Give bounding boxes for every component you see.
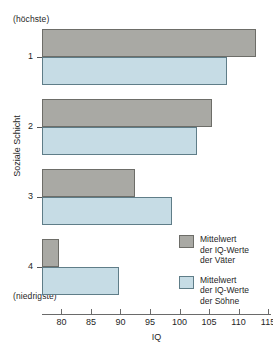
x-axis-tick-label: 95 (135, 317, 165, 327)
legend-entry: Mittelwertder IQ-Werteder Väter (179, 234, 273, 266)
bar-fathers (42, 239, 59, 267)
y-axis-tick (37, 57, 42, 58)
y-axis-category-label: 2 (19, 121, 33, 131)
legend: Mittelwertder IQ-Werteder VäterMittelwer… (179, 234, 273, 315)
legend-label-line: der IQ-Werte (200, 285, 273, 296)
bar-sons (42, 197, 172, 225)
x-axis-tick-label: 115 (253, 317, 273, 327)
x-axis-tick-label: 90 (105, 317, 135, 327)
bar-fathers (42, 99, 212, 127)
x-axis-tick (91, 309, 92, 314)
x-axis-tick-label: 85 (76, 317, 106, 327)
bar-sons (42, 267, 119, 295)
highest-class-note: (höchste) (13, 14, 49, 24)
legend-label-line: Mittelwert (200, 234, 273, 245)
iq-social-class-bar-chart: (höchste) (niedrigste) Soziale Schicht I… (0, 0, 273, 356)
y-axis-category-label: 4 (19, 261, 33, 271)
x-axis-tick-label: 105 (194, 317, 224, 327)
x-axis-tick (61, 309, 62, 314)
legend-swatch-sons (179, 276, 194, 289)
bar-fathers (42, 29, 256, 57)
y-axis-tick (37, 267, 42, 268)
x-axis-title: IQ (42, 332, 271, 342)
x-axis-tick-label: 110 (224, 317, 254, 327)
bar-sons (42, 127, 197, 155)
bar-group (42, 99, 273, 155)
legend-label: Mittelwertder IQ-Werteder Väter (200, 234, 273, 266)
legend-label-line: der Söhne (200, 296, 273, 307)
x-axis-tick (209, 309, 210, 314)
x-axis-tick (120, 309, 121, 314)
legend-label: Mittelwertder IQ-Werteder Söhne (200, 275, 273, 307)
legend-label-line: Mittelwert (200, 275, 273, 286)
y-axis-category-label: 3 (19, 191, 33, 201)
x-axis-tick (268, 309, 269, 314)
y-axis-title: Soziale Schicht (12, 98, 22, 194)
legend-entry: Mittelwertder IQ-Werteder Söhne (179, 275, 273, 307)
x-axis-tick (150, 309, 151, 314)
y-axis-tick (37, 127, 42, 128)
bar-fathers (42, 169, 135, 197)
x-axis-tick (239, 309, 240, 314)
x-axis-tick-label: 80 (46, 317, 76, 327)
legend-swatch-fathers (179, 235, 194, 248)
bar-group (42, 169, 273, 225)
y-axis-category-label: 1 (19, 51, 33, 61)
x-axis-tick-label: 100 (165, 317, 195, 327)
bar-sons (42, 57, 227, 85)
x-axis-tick (180, 309, 181, 314)
legend-label-line: der IQ-Werte (200, 245, 273, 256)
bar-group (42, 29, 273, 85)
y-axis-tick (37, 197, 42, 198)
legend-label-line: der Väter (200, 255, 273, 266)
